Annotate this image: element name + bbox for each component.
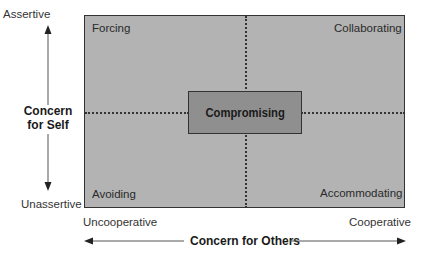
uncooperative-label: Uncooperative <box>83 216 157 228</box>
x-axis-left-arrow-icon <box>84 236 184 246</box>
quadrant-accommodating: Accommodating <box>320 187 402 199</box>
quadrant-forcing: Forcing <box>92 22 130 34</box>
x-axis-right-arrow-icon <box>290 236 406 246</box>
compromising-label: Compromising <box>205 106 284 120</box>
cooperative-label: Cooperative <box>349 216 411 228</box>
assertive-label: Assertive <box>3 8 50 20</box>
concern-for-self-line1: Concern <box>17 104 79 118</box>
quadrant-avoiding: Avoiding <box>92 188 136 200</box>
y-axis-up-arrow-icon <box>43 25 53 105</box>
quadrant-collaborating: Collaborating <box>334 22 402 34</box>
concern-for-self-label: Concern for Self <box>17 104 79 132</box>
concern-for-others-label: Concern for Others <box>190 234 300 248</box>
horizontal-divider-right <box>301 112 405 114</box>
y-axis-down-arrow-icon <box>43 134 53 191</box>
compromising-box: Compromising <box>188 91 302 134</box>
unassertive-label: Unassertive <box>21 198 82 210</box>
concern-for-self-line2: for Self <box>17 118 79 132</box>
horizontal-divider-left <box>85 112 189 114</box>
